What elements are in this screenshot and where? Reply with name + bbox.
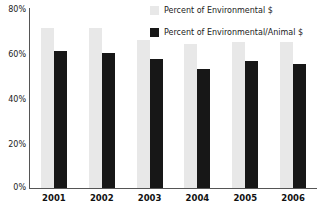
bar-2004-series1	[184, 44, 197, 188]
bar-2005-series2	[245, 61, 258, 188]
bar-2005-series1	[232, 42, 245, 188]
y-tick-40: 40%	[2, 96, 26, 104]
y-tick-20: 20%	[2, 141, 26, 149]
bar-2004-series2	[197, 69, 210, 188]
x-tick-2005: 2005	[221, 193, 269, 203]
bar-group-2006	[269, 8, 317, 188]
y-tick-80: 80%	[2, 6, 26, 14]
x-tick-2006: 2006	[269, 193, 317, 203]
bar-2002-series1	[89, 28, 102, 188]
x-tick-2002: 2002	[78, 193, 126, 203]
x-tick-2003: 2003	[126, 193, 174, 203]
bar-group-2001	[30, 8, 78, 188]
bar-2001-series2	[54, 51, 67, 188]
y-axis-labels: 80% 60% 40% 20% 0%	[0, 0, 26, 209]
bar-group-2002	[78, 8, 126, 188]
plot-area	[30, 8, 317, 188]
bar-chart: Percent of Environmental $ Percent of En…	[0, 0, 318, 209]
bar-2001-series1	[41, 28, 54, 188]
y-tick-0: 0%	[2, 184, 26, 192]
bar-2006-series1	[280, 42, 293, 188]
bar-2002-series2	[102, 53, 115, 188]
bar-2003-series2	[150, 59, 163, 188]
bar-group-2004	[174, 8, 222, 188]
bar-2006-series2	[293, 64, 306, 188]
y-tick-60: 60%	[2, 51, 26, 59]
bar-2003-series1	[137, 40, 150, 189]
x-tick-2004: 2004	[174, 193, 222, 203]
x-axis-line	[29, 188, 317, 189]
x-tick-2001: 2001	[30, 193, 78, 203]
bar-group-2005	[221, 8, 269, 188]
bar-group-2003	[126, 8, 174, 188]
